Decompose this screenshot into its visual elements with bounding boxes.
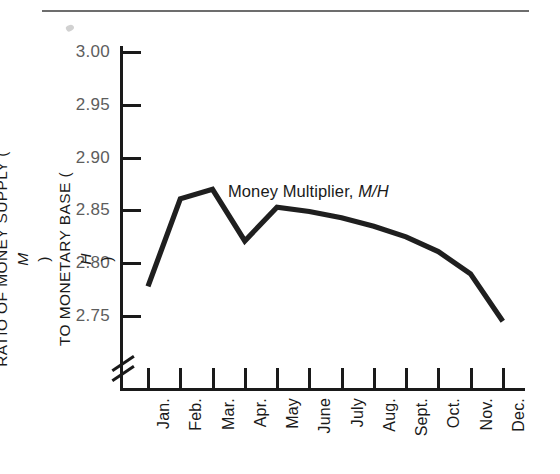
money-multiplier-chart: 2.752.802.852.902.953.00 Jan.Feb.Mar.Apr… <box>0 0 560 474</box>
money-multiplier-line <box>148 189 503 321</box>
plot-area <box>0 0 560 474</box>
